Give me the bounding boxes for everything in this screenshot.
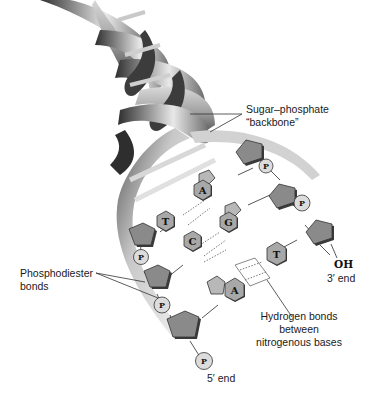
helix-ribbon bbox=[40, 0, 215, 175]
phosphate-label: P bbox=[263, 161, 269, 171]
phosphodiester-label-line1: Phosphodiester bbox=[20, 267, 93, 279]
phosphate-group: P bbox=[196, 353, 213, 370]
base-adenine-lower: A bbox=[207, 276, 245, 302]
oh-bond bbox=[331, 244, 337, 258]
phosphate-label: P bbox=[299, 198, 305, 208]
sugar-pentagon bbox=[167, 311, 201, 339]
oh-label: OH bbox=[334, 258, 353, 270]
phosphate-group: P bbox=[259, 159, 273, 173]
base-cytosine: C bbox=[184, 231, 202, 252]
dna-diagram: P P P P P T A bbox=[0, 0, 375, 395]
phosphate-group: P bbox=[154, 297, 170, 313]
svg-text:A: A bbox=[198, 185, 207, 196]
base-adenine: A bbox=[194, 170, 215, 201]
base-thymine-lower: T bbox=[267, 242, 287, 266]
phosphate-label: P bbox=[159, 300, 165, 310]
five-prime-end-label: 5′ end bbox=[207, 372, 235, 384]
svg-text:T: T bbox=[273, 249, 281, 260]
svg-text:G: G bbox=[224, 217, 233, 228]
phosphate-label: P bbox=[201, 356, 207, 366]
svg-text:A: A bbox=[230, 285, 239, 296]
hbond-label-line2: between bbox=[279, 323, 319, 335]
phosphate-group: P bbox=[294, 195, 310, 211]
phosphodiester-label-line2: bonds bbox=[20, 280, 49, 292]
svg-text:T: T bbox=[162, 216, 170, 227]
phosphate-group: P bbox=[134, 250, 149, 265]
base-guanine: G bbox=[220, 202, 241, 233]
hbond-label-line1: Hydrogen bonds bbox=[260, 310, 337, 322]
phosphate-label: P bbox=[138, 252, 144, 262]
svg-text:C: C bbox=[189, 236, 197, 247]
hbond-label-line3: nitrogenous bases bbox=[256, 336, 342, 348]
backbone-label-line2: “backbone” bbox=[246, 116, 299, 128]
sugar-pentagon bbox=[306, 220, 334, 246]
base-thymine: T bbox=[157, 211, 175, 232]
bases: T A C G A bbox=[157, 170, 287, 302]
backbone-label-line1: Sugar–phosphate bbox=[246, 103, 329, 115]
three-prime-end-label: 3′ end bbox=[327, 272, 355, 284]
sugar-pentagon bbox=[269, 184, 297, 210]
